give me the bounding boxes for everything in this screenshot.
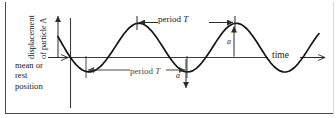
- origin-note-line2: rest: [15, 70, 43, 80]
- x-axis-label: time: [272, 50, 289, 60]
- origin-note-line3: position: [15, 81, 43, 91]
- amplitude-bottom-label: a: [176, 71, 180, 80]
- period-bottom-symbol: T: [155, 66, 160, 76]
- origin-note: mean or rest position: [15, 60, 43, 91]
- origin-note-line1: mean or: [15, 60, 43, 70]
- y-axis-label-line1: displacement: [26, 15, 36, 59]
- period-top-label: period T: [158, 14, 188, 24]
- period-bottom-text: period: [130, 66, 155, 76]
- period-bottom-label: period T: [130, 66, 160, 76]
- amplitude-top-label: a: [227, 37, 231, 46]
- displacement-wave-curve: [58, 23, 319, 72]
- period-top-text: period: [158, 14, 183, 24]
- diagram-canvas: displacement of particle A mean or rest …: [0, 0, 336, 118]
- period-top-symbol: T: [183, 14, 188, 24]
- y-axis-label-line2: of particle A: [38, 18, 48, 59]
- y-axis-label: displacement of particle A: [14, 2, 76, 60]
